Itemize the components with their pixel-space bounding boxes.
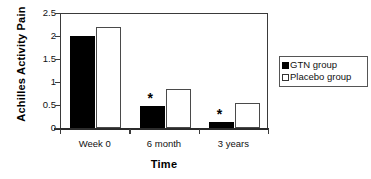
legend-label-gtn-group: GTN group (290, 60, 337, 70)
plot-area (60, 13, 268, 128)
significance-star: * (217, 110, 222, 118)
bar-gtn-group (140, 106, 165, 128)
y-axis-tick-label: 2 (30, 31, 56, 41)
x-axis-category-label: Week 0 (60, 138, 129, 149)
y-axis-tick-label: 1 (30, 77, 56, 87)
legend-swatch-open-square-icon (282, 74, 289, 81)
y-axis-tick-mark (55, 105, 60, 106)
x-axis-tick-mark (268, 129, 269, 134)
x-axis-tick-mark (199, 129, 200, 134)
y-axis-tick-mark (55, 82, 60, 83)
y-axis-tick-label: 2.5 (30, 8, 56, 18)
significance-star: * (148, 94, 153, 102)
y-axis-tick-mark (55, 59, 60, 60)
bar-gtn-group (70, 36, 95, 128)
x-axis-tick-mark (129, 129, 130, 134)
legend-swatch-filled-square-icon (282, 62, 289, 69)
y-axis-tick-labels: 00.511.522.5 (28, 0, 56, 179)
x-axis-category-label: 3 years (199, 138, 268, 149)
y-axis-tick-label: 0 (30, 123, 56, 133)
x-axis-tick-mark (60, 129, 61, 134)
x-axis-title: Time (60, 158, 268, 170)
x-axis-baseline (54, 128, 269, 130)
legend-item-gtn-group: GTN group (282, 59, 365, 71)
y-axis-tick-label: 0.5 (30, 100, 56, 110)
x-axis-category-label: 6 month (129, 138, 198, 149)
legend-label-placebo-group: Placebo group (290, 72, 351, 82)
y-axis-tick-mark (55, 36, 60, 37)
bar-placebo-group (235, 103, 260, 128)
chart-legend: GTN group Placebo group (279, 56, 368, 87)
y-axis-tick-label: 1.5 (30, 54, 56, 64)
y-axis-title: Achilles Activity Pain (15, 0, 27, 129)
bar-placebo-group (96, 27, 121, 128)
bar-chart-figure: Achilles Activity Pain 00.511.522.5 Time… (0, 0, 371, 179)
legend-item-placebo-group: Placebo group (282, 71, 365, 83)
y-axis-tick-mark (55, 13, 60, 14)
bar-placebo-group (166, 89, 191, 128)
